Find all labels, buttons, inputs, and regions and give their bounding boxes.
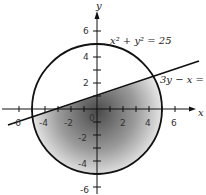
- x-tick-label: 4: [145, 118, 151, 128]
- x-tick-label: 6: [171, 118, 177, 128]
- x-axis-label: x: [198, 107, 204, 118]
- y-tick-label: 6: [83, 26, 89, 36]
- x-tick-label: 0: [89, 113, 95, 123]
- y-tick-label: -4: [78, 159, 87, 169]
- y-tick-label: 4: [83, 52, 89, 62]
- line-equation-label: 3y − x =: [160, 74, 204, 85]
- circle-equation-label: x² + y² = 25: [110, 35, 172, 46]
- graph: x y -6 -4 -2 0 2 4 6 6 4 2 -2 -4 -6 x² +…: [0, 0, 206, 195]
- x-tick-label: 2: [120, 118, 126, 128]
- y-axis-label: y: [95, 0, 102, 11]
- y-tick-label: 2: [83, 78, 89, 88]
- x-tick-label: -2: [64, 118, 73, 128]
- y-tick-label: -2: [78, 133, 87, 143]
- y-tick-label: -6: [80, 185, 89, 195]
- x-tick-label: -6: [12, 118, 21, 128]
- x-tick-label: -4: [39, 118, 48, 128]
